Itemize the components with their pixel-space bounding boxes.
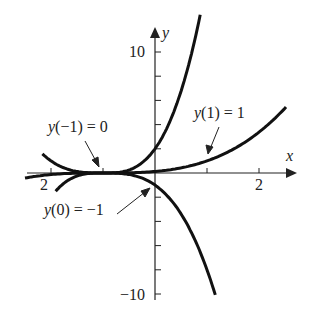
plot-area — [0, 0, 309, 318]
x-tick-label-right: 2 — [255, 176, 263, 194]
x-axis-arrow-icon — [286, 168, 297, 178]
figure: y x 10 −10 2 2 y(−1) = 0 y(1) = 1 y(0) =… — [0, 0, 309, 318]
x-axis-label: x — [286, 147, 293, 165]
annotation-y-1: y(1) = 1 — [194, 104, 245, 122]
annotation-y-minus1: y(−1) = 0 — [48, 118, 108, 136]
y-axis-label: y — [162, 24, 169, 42]
annotation-y-0: y(0) = −1 — [44, 201, 104, 219]
y-tick-label-top: 10 — [129, 43, 145, 61]
y-tick-label-bottom: −10 — [120, 286, 145, 304]
y-axis-arrow-icon — [150, 27, 160, 38]
x-tick-label-left: 2 — [40, 176, 48, 194]
